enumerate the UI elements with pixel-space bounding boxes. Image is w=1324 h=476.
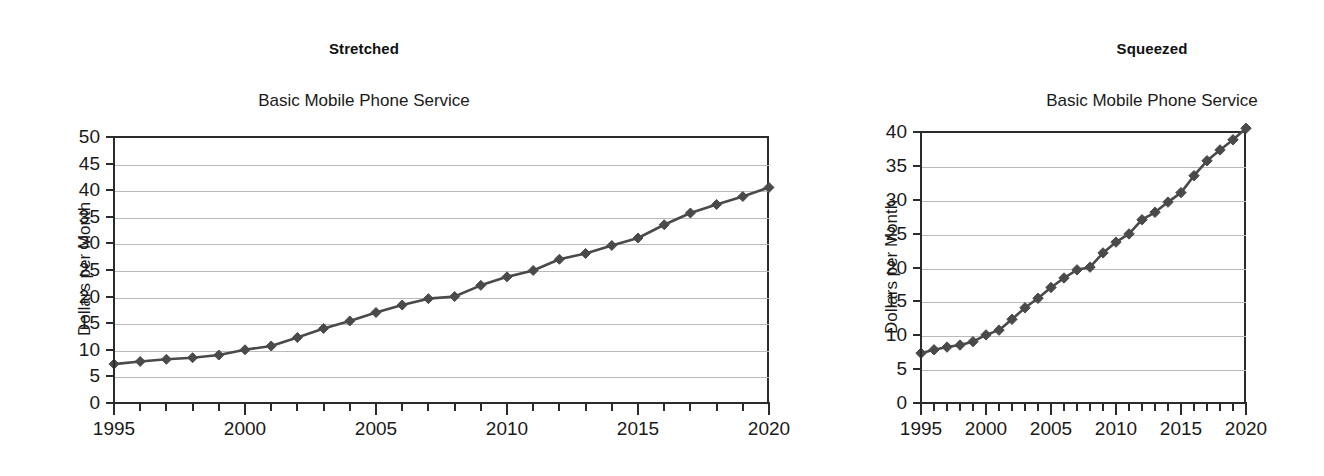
data-point-marker <box>581 248 591 258</box>
data-point-marker <box>397 300 407 310</box>
y-axis-tick <box>913 402 920 404</box>
y-axis-tick <box>106 349 113 351</box>
chart-title-right: Basic Mobile Phone Service <box>890 91 1324 111</box>
x-axis-line <box>920 402 1247 404</box>
y-axis-tick-label: 25 <box>60 260 100 279</box>
chart-panel-stretched: Stretched Basic Mobile Phone Service Dol… <box>0 0 800 476</box>
x-axis-minor-tick <box>689 404 691 411</box>
y-axis-tick <box>913 131 920 133</box>
data-point-marker <box>161 354 171 364</box>
data-point-marker <box>659 220 669 230</box>
data-point-marker <box>214 350 224 360</box>
x-axis-minor-tick <box>972 404 974 411</box>
x-axis-minor-tick <box>427 404 429 411</box>
y-axis-tick <box>913 334 920 336</box>
x-axis-minor-tick <box>742 404 744 411</box>
data-point-marker <box>188 353 198 363</box>
y-axis-tick-label: 50 <box>60 127 100 146</box>
x-axis-minor-tick <box>218 404 220 411</box>
x-axis-tick-label: 2015 <box>1146 419 1216 438</box>
y-axis-tick-label: 20 <box>60 287 100 306</box>
y-axis-tick <box>106 269 113 271</box>
x-axis-minor-tick <box>1154 404 1156 411</box>
x-axis-minor-tick <box>1024 404 1026 411</box>
y-axis-tick <box>913 300 920 302</box>
y-axis-tick <box>913 233 920 235</box>
x-axis-minor-tick <box>1076 404 1078 411</box>
x-axis-minor-tick <box>480 404 482 411</box>
x-axis-major-tick <box>1245 404 1247 415</box>
y-axis-tick-label: 15 <box>867 291 907 310</box>
x-axis-major-tick <box>1115 404 1117 415</box>
data-point-marker <box>968 336 978 346</box>
data-point-marker <box>981 330 991 340</box>
chart-title-left: Basic Mobile Phone Service <box>0 91 764 111</box>
x-axis-minor-tick <box>933 404 935 411</box>
y-axis-tick-label: 40 <box>867 122 907 141</box>
y-axis-tick <box>913 165 920 167</box>
y-axis-tick <box>106 216 113 218</box>
x-axis-minor-tick <box>946 404 948 411</box>
data-series <box>114 138 769 404</box>
y-axis-tick-label: 10 <box>867 325 907 344</box>
y-axis-tick <box>106 296 113 298</box>
x-axis-tick-label: 2010 <box>1081 419 1151 438</box>
x-axis-minor-tick <box>1128 404 1130 411</box>
x-axis-major-tick <box>985 404 987 415</box>
y-axis-tick-label: 20 <box>867 258 907 277</box>
x-axis-tick-label: 2020 <box>734 419 804 438</box>
y-axis-tick-label: 30 <box>60 233 100 252</box>
y-axis-tick-label: 0 <box>867 393 907 412</box>
x-axis-minor-tick <box>296 404 298 411</box>
chart-panel-squeezed: Squeezed Basic Mobile Phone Service Doll… <box>800 0 1324 476</box>
x-axis-tick-label: 1995 <box>886 419 956 438</box>
y-axis-tick-label: 15 <box>60 313 100 332</box>
x-axis-minor-tick <box>1167 404 1169 411</box>
x-axis-minor-tick <box>1011 404 1013 411</box>
series-line <box>921 128 1246 353</box>
y-axis-tick <box>106 402 113 404</box>
y-axis-tick <box>106 163 113 165</box>
y-axis-tick-label: 35 <box>60 207 100 226</box>
x-axis-minor-tick <box>1206 404 1208 411</box>
x-axis-major-tick <box>375 404 377 415</box>
plot-area-left <box>114 136 769 402</box>
x-axis-major-tick <box>506 404 508 415</box>
x-axis-minor-tick <box>139 404 141 411</box>
y-axis-tick <box>106 375 113 377</box>
x-axis-tick-label: 2000 <box>951 419 1021 438</box>
y-axis-tick <box>106 189 113 191</box>
x-axis-minor-tick <box>716 404 718 411</box>
y-axis-tick <box>106 322 113 324</box>
plot-area-right <box>921 131 1246 402</box>
data-point-marker <box>266 341 276 351</box>
panel-heading-squeezed: Squeezed <box>890 40 1324 57</box>
x-axis-minor-tick <box>1037 404 1039 411</box>
data-point-marker <box>319 323 329 333</box>
data-point-marker <box>633 233 643 243</box>
y-axis-tick <box>106 242 113 244</box>
data-point-marker <box>738 192 748 202</box>
x-axis-minor-tick <box>663 404 665 411</box>
x-axis-line <box>113 402 770 404</box>
data-point-marker <box>942 342 952 352</box>
x-axis-minor-tick <box>1089 404 1091 411</box>
x-axis-tick-label: 2000 <box>210 419 280 438</box>
x-axis-major-tick <box>113 404 115 415</box>
x-axis-minor-tick <box>401 404 403 411</box>
y-axis-tick-label: 5 <box>867 359 907 378</box>
x-axis-major-tick <box>637 404 639 415</box>
x-axis-minor-tick <box>532 404 534 411</box>
x-axis-tick-label: 2010 <box>472 419 542 438</box>
x-axis-minor-tick <box>1193 404 1195 411</box>
y-axis-line <box>920 131 922 403</box>
x-axis-minor-tick <box>1141 404 1143 411</box>
data-point-marker <box>554 254 564 264</box>
data-point-marker <box>502 272 512 282</box>
x-axis-minor-tick <box>454 404 456 411</box>
data-point-marker <box>607 240 617 250</box>
data-point-marker <box>371 307 381 317</box>
x-axis-minor-tick <box>1232 404 1234 411</box>
y-axis-tick <box>913 267 920 269</box>
x-axis-minor-tick <box>349 404 351 411</box>
